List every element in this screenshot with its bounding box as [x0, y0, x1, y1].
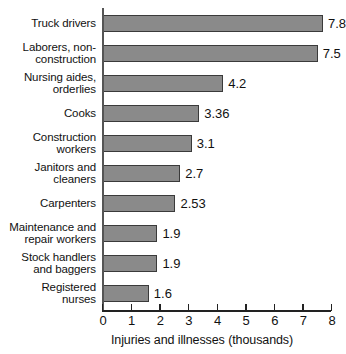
bar-track: 2.7: [103, 158, 346, 188]
x-axis-tick: [274, 304, 275, 311]
category-label: Stock handlers and baggers: [0, 251, 96, 276]
bar: [103, 45, 318, 62]
x-axis-tick-label: 3: [179, 313, 199, 328]
x-axis-tick-label: 0: [93, 313, 113, 328]
x-axis-title: Injuries and illnesses (thousands): [0, 333, 346, 347]
table-row: Nursing aides, orderlies 4.2: [0, 68, 346, 98]
x-axis-tick-label: 7: [293, 313, 313, 328]
table-row: Stock handlers and baggers 1.9: [0, 248, 346, 278]
category-label: Cooks: [0, 107, 96, 120]
bar: [103, 105, 199, 122]
category-label: Construction workers: [0, 131, 96, 156]
bar: [103, 75, 223, 92]
table-row: Laborers, non- construction 7.5: [0, 38, 346, 68]
bar-track: 1.6: [103, 278, 346, 308]
bar-track: 1.9: [103, 218, 346, 248]
y-axis-line: [102, 8, 104, 311]
bar-value-label: 4.2: [228, 77, 246, 90]
bar-track: 1.9: [103, 248, 346, 278]
x-axis-tick-label: 1: [122, 313, 142, 328]
x-axis-tick: [188, 304, 189, 311]
table-row: Janitors and cleaners 2.7: [0, 158, 346, 188]
x-axis-tick: [131, 304, 132, 311]
table-row: Construction workers 3.1: [0, 128, 346, 158]
bar: [103, 225, 157, 242]
category-label: Registered nurses: [0, 281, 96, 306]
bar-track: 3.36: [103, 98, 346, 128]
bar-value-label: 1.6: [154, 287, 172, 300]
bar-track: 7.5: [103, 38, 346, 68]
category-label: Janitors and cleaners: [0, 161, 96, 186]
bar-track: 7.8: [103, 8, 346, 38]
bar-chart: Truck drivers 7.8 Laborers, non- constru…: [0, 0, 346, 354]
bar: [103, 15, 323, 32]
bar-value-label: 2.53: [180, 197, 205, 210]
bar-track: 4.2: [103, 68, 346, 98]
category-label: Laborers, non- construction: [0, 41, 96, 66]
bar-value-label: 2.7: [185, 167, 203, 180]
x-axis-tick-label: 4: [208, 313, 228, 328]
table-row: Cooks 3.36: [0, 98, 346, 128]
bar-track: 2.53: [103, 188, 346, 218]
table-row: Carpenters 2.53: [0, 188, 346, 218]
bar-value-label: 1.9: [162, 227, 180, 240]
table-row: Truck drivers 7.8: [0, 8, 346, 38]
category-label: Truck drivers: [0, 17, 96, 30]
x-axis-tick-label: 8: [322, 313, 342, 328]
x-axis-tick: [245, 304, 246, 311]
bar: [103, 255, 157, 272]
x-axis-tick: [102, 304, 103, 311]
category-label: Carpenters: [0, 197, 96, 210]
bar: [103, 135, 192, 152]
plot-area: Truck drivers 7.8 Laborers, non- constru…: [0, 0, 346, 354]
bar-value-label: 3.36: [204, 107, 229, 120]
x-axis-tick: [217, 304, 218, 311]
x-axis-tick: [302, 304, 303, 311]
bar: [103, 195, 175, 212]
bar-rows: Truck drivers 7.8 Laborers, non- constru…: [0, 8, 346, 308]
bar-value-label: 7.8: [328, 17, 346, 30]
x-axis-tick: [159, 304, 160, 311]
bar-value-label: 3.1: [197, 137, 215, 150]
bar-track: 3.1: [103, 128, 346, 158]
bar: [103, 285, 149, 302]
bar-value-label: 1.9: [162, 257, 180, 270]
table-row: Maintenance and repair workers 1.9: [0, 218, 346, 248]
bar: [103, 165, 180, 182]
category-label: Nursing aides, orderlies: [0, 71, 96, 96]
x-axis-tick-label: 2: [150, 313, 170, 328]
table-row: Registered nurses 1.6: [0, 278, 346, 308]
bar-value-label: 7.5: [323, 47, 341, 60]
x-axis-tick-label: 5: [236, 313, 256, 328]
x-axis-tick: [331, 304, 332, 311]
category-label: Maintenance and repair workers: [0, 221, 96, 246]
x-axis-tick-label: 6: [265, 313, 285, 328]
